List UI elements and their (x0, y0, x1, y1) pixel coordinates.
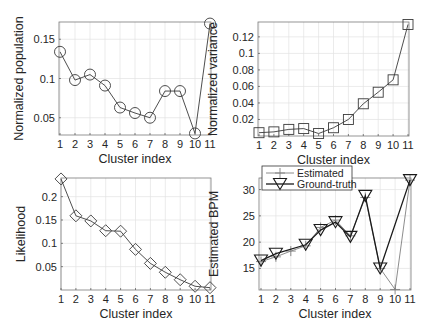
x-tick-label: 6 (332, 293, 338, 305)
y-axis-label: Likelihood (14, 206, 28, 262)
y-tick-label: 0.06 (233, 80, 254, 92)
x-tick-label: 10 (189, 293, 201, 305)
x-tick-label: 10 (387, 139, 399, 151)
y-tick-label: 0.1 (239, 47, 254, 59)
grid (61, 178, 211, 290)
panel-likelihood: 12345678910110.050.10.150.2Cluster index… (14, 173, 216, 321)
grid (259, 178, 411, 290)
y-tick-label: 30 (243, 184, 255, 196)
y-tick-label: 0.04 (233, 97, 254, 109)
legend-label: Ground-truth (297, 178, 357, 190)
y-axis-label: Normalized variance (206, 22, 220, 136)
y-tick-label: 25 (243, 210, 255, 222)
x-axis-label: Cluster index (100, 307, 174, 321)
y-tick-label: 0.1 (40, 73, 55, 85)
x-tick-label: 4 (103, 293, 109, 305)
y-tick-label: 0.15 (34, 33, 55, 45)
x-tick-label: 1 (258, 293, 264, 305)
x-tick-label: 5 (118, 293, 124, 305)
x-tick-label: 5 (316, 139, 322, 151)
x-tick-label: 10 (389, 293, 401, 305)
x-tick-label: 6 (132, 138, 138, 150)
x-tick-label: 7 (147, 293, 153, 305)
y-tick-label: 0.12 (233, 31, 254, 43)
x-tick-label: 1 (256, 139, 262, 151)
x-tick-label: 11 (402, 139, 413, 151)
panel-population: 12345678910110.050.10.15Cluster indexNor… (12, 16, 216, 166)
x-tick-label: 3 (88, 293, 94, 305)
x-tick-label: 7 (347, 293, 353, 305)
x-tick-label: 2 (72, 138, 78, 150)
x-tick-label: 3 (87, 138, 93, 150)
x-tick-label: 4 (303, 293, 309, 305)
y-tick-label: 15 (243, 262, 255, 274)
x-tick-label: 4 (301, 139, 307, 151)
x-tick-label: 9 (177, 293, 183, 305)
y-tick-label: 0.2 (42, 191, 57, 203)
x-axis-label: Cluster index (297, 153, 371, 167)
x-tick-label: 9 (177, 138, 183, 150)
grid (258, 22, 409, 136)
x-tick-label: 11 (204, 138, 215, 150)
x-tick-label: 2 (271, 139, 277, 151)
x-tick-label: 11 (204, 293, 215, 305)
x-tick-label: 11 (404, 293, 415, 305)
x-tick-label: 6 (330, 139, 336, 151)
x-axis-label: Cluster index (99, 152, 173, 166)
y-axis-label: Estimated BPM (207, 191, 221, 277)
y-tick-label: 0.08 (233, 64, 254, 76)
x-tick-label: 9 (375, 139, 381, 151)
x-tick-label: 8 (362, 293, 368, 305)
x-tick-label: 8 (360, 139, 366, 151)
y-tick-label: 0.1 (42, 237, 57, 249)
y-tick-label: 0.15 (36, 214, 57, 226)
x-tick-label: 5 (117, 138, 123, 150)
panel-variance: 12345678910110.020.040.060.080.10.12Clus… (206, 19, 414, 167)
x-tick-label: 1 (57, 138, 63, 150)
x-tick-label: 3 (288, 293, 294, 305)
axes-box (259, 178, 411, 290)
axes-box (61, 178, 211, 290)
y-tick-label: 0.05 (34, 112, 55, 124)
x-tick-label: 10 (189, 138, 201, 150)
x-tick-label: 5 (318, 293, 324, 305)
x-tick-label: 8 (162, 138, 168, 150)
x-tick-label: 4 (102, 138, 108, 150)
x-tick-label: 2 (273, 293, 279, 305)
y-tick-label: 0.02 (233, 113, 254, 125)
figure-canvas: 12345678910110.050.10.15Cluster indexNor… (0, 0, 432, 335)
grid (59, 22, 211, 135)
x-tick-label: 8 (162, 293, 168, 305)
y-tick-label: 20 (243, 236, 255, 248)
legend: EstimatedGround-truth (262, 166, 357, 190)
x-tick-label: 1 (58, 293, 64, 305)
y-tick-label: 0.05 (36, 261, 57, 273)
x-tick-label: 6 (132, 293, 138, 305)
x-tick-label: 7 (345, 139, 351, 151)
x-tick-label: 9 (377, 293, 383, 305)
x-tick-label: 3 (286, 139, 292, 151)
y-axis-label: Normalized population (12, 16, 26, 140)
x-tick-label: 7 (147, 138, 153, 150)
panel-bpm: 123456789101115202530Cluster indexEstima… (207, 166, 417, 321)
x-axis-label: Cluster index (299, 307, 373, 321)
x-tick-label: 2 (73, 293, 79, 305)
